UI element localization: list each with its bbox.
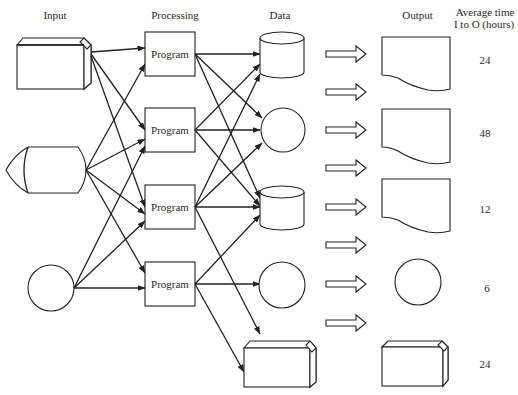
time-value-2: 48 <box>470 127 500 139</box>
header-average-time-units: I to O (hours) <box>450 18 518 30</box>
program-boxes <box>145 32 195 306</box>
time-value-4: 6 <box>472 282 502 294</box>
data-cylinder-2 <box>260 186 304 230</box>
output-circle <box>395 259 441 305</box>
header-processing: Processing <box>140 9 210 21</box>
input-circle-shape <box>28 265 74 311</box>
output-document-2 <box>382 109 450 164</box>
output-document-3 <box>382 179 450 233</box>
program-to-data-arrows <box>195 54 262 372</box>
program-label-3: Program <box>145 201 195 213</box>
header-input: Input <box>25 9 85 21</box>
block-arrows <box>326 46 366 331</box>
header-average-time: Average time <box>452 6 518 18</box>
time-value-3: 12 <box>470 203 500 215</box>
header-output: Output <box>390 9 445 21</box>
header-data: Data <box>255 9 305 21</box>
program-label-1: Program <box>145 48 195 60</box>
time-value-1: 24 <box>470 54 500 66</box>
io-flow-diagram <box>0 0 518 395</box>
data-circle-1 <box>261 108 305 152</box>
output-card-box <box>382 341 448 386</box>
data-cylinder-1 <box>260 32 304 78</box>
data-card-box <box>244 341 316 387</box>
program-label-4: Program <box>145 278 195 290</box>
program-label-2: Program <box>145 124 195 136</box>
data-circle-2 <box>259 262 305 308</box>
time-value-5: 24 <box>470 358 500 370</box>
input-display-shape <box>6 147 86 193</box>
output-document-1 <box>382 37 450 91</box>
input-card-shape <box>17 38 91 89</box>
